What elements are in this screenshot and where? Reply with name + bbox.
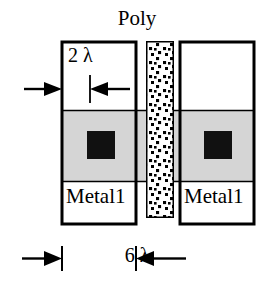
dimension-2-lambda xyxy=(24,75,130,103)
poly-label: Poly xyxy=(0,8,274,29)
contact-square-right xyxy=(204,131,232,159)
dimension-label-6-lambda: 6 λ xyxy=(0,245,274,265)
metal1-left-label: Metal1 xyxy=(66,186,125,207)
metal1-right-label: Metal1 xyxy=(184,186,243,207)
contact-square-left xyxy=(87,131,115,159)
dimension-label-2-lambda: 2 λ xyxy=(68,45,93,65)
layout-diagram: Poly 2 λ Metal1 Metal1 6 λ xyxy=(0,0,274,287)
poly-stripe xyxy=(146,41,174,218)
